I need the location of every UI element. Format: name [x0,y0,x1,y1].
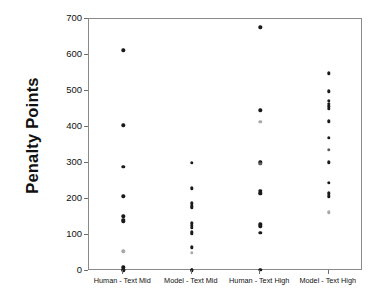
y-tick-label: 300 [52,157,82,167]
y-tick-mark [84,270,88,271]
data-point [259,225,262,228]
data-point [259,231,262,234]
y-tick-label: 700 [52,13,82,23]
x-tick-mark [328,270,329,274]
data-point [327,181,330,184]
x-tick-label: Model - Text High [299,277,356,284]
data-point [190,161,193,164]
data-point [190,226,193,229]
y-tick-label: 200 [52,193,82,203]
data-point [327,194,330,197]
data-point [327,107,330,110]
data-point [190,246,193,249]
y-tick-label: 500 [52,85,82,95]
data-point [327,136,330,139]
plot-area [89,19,361,269]
data-point [327,90,330,93]
data-point [327,120,330,123]
x-tick-mark [122,270,123,274]
chart-figure: Penalty Points 0100200300400500600700 Hu… [0,0,378,305]
data-point [259,120,262,123]
data-point [122,165,125,168]
y-tick-label: 100 [52,229,82,239]
data-point [122,220,125,223]
data-point [327,161,330,164]
data-point [259,162,262,165]
data-point [259,192,262,195]
data-point [122,123,125,126]
data-point [122,249,125,252]
data-point [190,206,193,209]
data-point [122,194,125,197]
x-tick-label: Human - Text High [229,277,289,284]
y-tick-label: 400 [52,121,82,131]
data-point [190,186,193,189]
y-tick-label: 0 [52,265,82,275]
y-tick-label: 600 [52,49,82,59]
data-point [190,232,193,235]
x-tick-mark [259,270,260,274]
plot-frame [88,18,362,270]
data-point [259,26,262,29]
data-point [327,72,330,75]
data-point [327,211,330,214]
data-point [190,251,193,254]
x-tick-label: Model - Text Mid [164,277,217,284]
data-point [327,148,330,151]
x-tick-mark [191,270,192,274]
data-point [122,49,125,52]
x-tick-label: Human - Text Mid [94,277,151,284]
data-point [259,109,262,112]
